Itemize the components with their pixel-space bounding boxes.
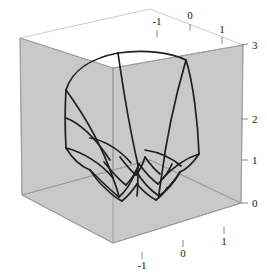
tick-right-3 (241, 44, 248, 45)
label-bottom-one: 1 (221, 235, 227, 247)
mesh-spoke-2 (137, 165, 138, 196)
mesh-rim-left (65, 90, 66, 148)
label-right-one: 1 (252, 154, 258, 166)
label-top-one: 1 (219, 23, 225, 35)
plot-figure: -1 0 1 3 2 1 0 -1 0 1 (0, 0, 267, 277)
label-right-three: 3 (252, 39, 258, 51)
bounding-box-panels (20, 38, 243, 243)
plot-canvas: -1 0 1 3 2 1 0 -1 0 1 (0, 0, 267, 277)
label-bottom-zero: 0 (180, 247, 186, 259)
box-edge-lid-left (20, 9, 150, 38)
label-bottom-minus1: -1 (137, 259, 146, 271)
label-right-zero: 0 (252, 197, 258, 209)
label-right-two: 2 (252, 113, 258, 125)
label-top-minus1: -1 (152, 15, 161, 27)
label-top-zero: 0 (187, 9, 193, 21)
box-edge-lid-right (150, 9, 243, 45)
